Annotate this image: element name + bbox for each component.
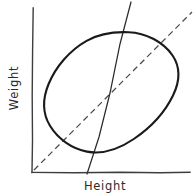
data-cloud-ellipse	[44, 32, 178, 152]
x-axis-label: Height	[84, 179, 126, 193]
dashed-diagonal-line	[34, 12, 192, 170]
solid-steep-line	[87, 2, 131, 174]
y-axis-label: Weight	[7, 66, 21, 110]
x-axis-line	[32, 172, 190, 173]
height-weight-diagram: Height Weight	[0, 0, 195, 196]
plot-canvas: Height Weight	[0, 0, 195, 196]
y-axis-line	[32, 8, 33, 173]
